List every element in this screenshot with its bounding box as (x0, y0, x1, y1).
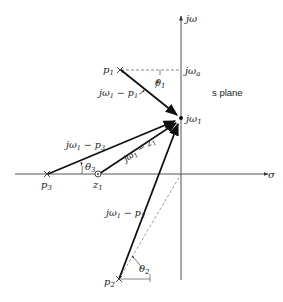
vector-p1-pointer (139, 90, 144, 94)
vector-label-p1: jω1 − p1 (97, 87, 138, 100)
p1-label: p1 (103, 64, 114, 77)
p2-origin-dashed-line (119, 174, 181, 279)
z1-label: z1 (92, 179, 103, 192)
svg-text:jω1 − p3: jω1 − p3 (64, 139, 105, 152)
svg-text:p3: p3 (41, 179, 52, 192)
svg-text:z1: z1 (92, 179, 103, 192)
theta2-label: θ2 (139, 263, 150, 276)
jw1-label: jω1 (184, 113, 202, 126)
svg-text:jω1: jω1 (184, 113, 202, 126)
svg-text:θ3: θ3 (85, 161, 96, 174)
s-plane-label: s plane (212, 87, 243, 98)
real-axis-label: σ (268, 169, 276, 180)
vector-label-p2: jω1 − p2 (104, 207, 145, 220)
s-plane-diagram: jω σ s plane jωa jω1 p1 p3 z1 (0, 0, 283, 302)
theta3-label: θ3 (85, 161, 96, 174)
zero-z1-marker (95, 171, 101, 177)
svg-text:jω1 − z1: jω1 − z1 (120, 135, 157, 165)
svg-text:θ2: θ2 (139, 263, 150, 276)
svg-text:θ1: θ1 (155, 77, 166, 90)
p3-label: p3 (41, 179, 52, 192)
svg-text:jω1 − p1: jω1 − p1 (97, 87, 138, 100)
theta3-arc (81, 162, 82, 174)
p2-label: p2 (104, 276, 115, 289)
svg-text:jω1 − p2: jω1 − p2 (104, 207, 145, 220)
jw1-point (179, 116, 183, 120)
imag-axis-label: jω (184, 13, 197, 24)
vector-label-p3: jω1 − p3 (64, 139, 105, 152)
svg-text:p2: p2 (104, 276, 115, 289)
svg-text:jωa: jωa (183, 65, 200, 78)
theta1-label: θ1 (155, 77, 166, 90)
svg-text:p1: p1 (103, 64, 114, 77)
vector-label-z1: jω1 − z1 (120, 135, 157, 165)
jwa-label: jωa (183, 65, 200, 78)
